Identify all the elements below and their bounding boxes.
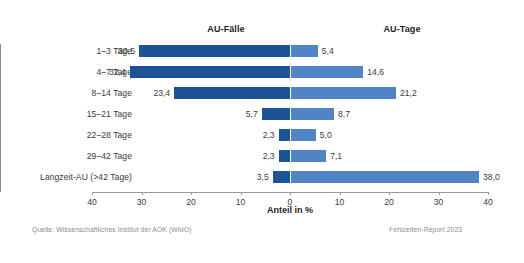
chart-figure: AU-Fälle AU-Tage 1–3 Tage30,55,44–7 Tage… [0,0,524,263]
category-label: 15–21 Tage [0,109,132,119]
table-row: 22–28 Tage2,35,0 [0,128,524,144]
table-row: 8–14 Tage23,421,2 [0,86,524,102]
panel-title-au-faelle: AU-Fälle [196,24,256,34]
axis-tick [92,192,93,195]
bar-value-au-tage: 5,0 [320,130,332,140]
axis-tick [142,192,143,195]
bar-au-faelle [279,129,290,142]
table-row: 29–42 Tage2,37,1 [0,149,524,165]
bar-value-au-tage: 8,7 [338,109,350,119]
bar-au-tage [291,45,318,58]
bar-value-au-faelle: 5,7 [228,109,258,119]
axis-tick [241,192,242,195]
zero-axis-line [0,44,1,192]
table-row: 4–7 Tage32,414,6 [0,65,524,81]
bar-au-tage [291,129,316,142]
axis-tick-label: 40 [77,197,107,207]
category-label: 22–28 Tage [0,130,132,140]
bar-au-tage [291,150,326,163]
axis-tick [389,192,390,195]
bar-value-au-faelle: 23,4 [140,88,170,98]
bar-value-au-faelle: 2,3 [245,151,275,161]
bar-value-au-tage: 5,4 [322,46,334,56]
bar-au-faelle [174,87,290,100]
bar-value-au-tage: 21,2 [400,88,417,98]
category-label: 29–42 Tage [0,151,132,161]
axis-tick-label: 20 [374,197,404,207]
axis-tick-label: 30 [424,197,454,207]
axis-tick-label: 40 [473,197,503,207]
axis-tick [439,192,440,195]
bar-au-faelle [262,108,290,121]
bar-au-tage [291,87,396,100]
bar-au-tage [291,171,479,184]
bar-value-au-faelle: 2,3 [245,130,275,140]
axis-tick [488,192,489,195]
axis-tick [290,192,291,195]
category-label: Langzeit-AU (>42 Tage) [0,172,132,182]
bar-value-au-faelle: 32,4 [96,67,126,77]
bar-au-tage [291,66,363,79]
bar-au-faelle [273,171,290,184]
bar-au-faelle [130,66,290,79]
bar-value-au-faelle: 3,5 [239,172,269,182]
report-note: Fehlzeiten-Report 2023 [389,226,462,233]
axis-tick-label: 30 [127,197,157,207]
axis-tick-label: 20 [176,197,206,207]
source-note: Quelle: Wissenschaftliches Institut der … [32,226,192,233]
bar-value-au-faelle: 30,5 [105,46,135,56]
category-label: 8–14 Tage [0,88,132,98]
bar-value-au-tage: 14,6 [367,67,384,77]
bar-value-au-tage: 38,0 [483,172,500,182]
bar-au-faelle [139,45,290,58]
bar-au-faelle [279,150,290,163]
bar-value-au-tage: 7,1 [330,151,342,161]
bar-au-tage [291,108,334,121]
axis-tick [340,192,341,195]
x-axis-title: Anteil in % [230,205,350,215]
table-row: 1–3 Tage30,55,4 [0,44,524,60]
table-row: Langzeit-AU (>42 Tage)3,538,0 [0,170,524,186]
panel-title-au-tage: AU-Tage [372,24,432,34]
axis-tick [191,192,192,195]
table-row: 15–21 Tage5,78,7 [0,107,524,123]
